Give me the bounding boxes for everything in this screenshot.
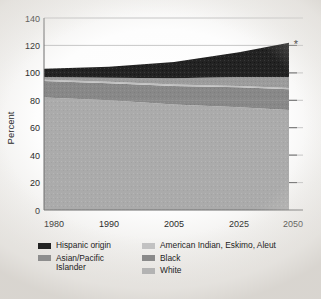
y-tick-label: 20 xyxy=(30,178,40,188)
legend-swatch-white xyxy=(142,268,155,274)
legend-label: White xyxy=(160,266,181,276)
y-tick-label: 60 xyxy=(30,123,40,133)
x-tick-label: 2025 xyxy=(229,219,249,229)
y-tick-label: 0 xyxy=(35,206,40,216)
x-tick-label: 1990 xyxy=(99,219,119,229)
asterisk-annotation: * xyxy=(294,38,299,50)
legend-swatch-hispanic-origin xyxy=(38,243,51,249)
x-tick-labels: 1980 1990 2005 2025 2050 xyxy=(44,219,303,229)
x-tick-label: 1980 xyxy=(44,219,64,229)
legend-swatch-black xyxy=(142,255,155,261)
area-white xyxy=(44,98,289,210)
legend-item-black[interactable]: Black xyxy=(142,254,318,264)
y-tick-label: 80 xyxy=(30,96,40,106)
x-tick-label: 2050 xyxy=(283,219,303,229)
legend-label: Asian/Pacific Islander xyxy=(56,254,104,273)
legend-label: Black xyxy=(160,254,180,264)
y-tick-label: 40 xyxy=(30,151,40,161)
legend-label: Hispanic origin xyxy=(56,241,111,251)
legend-column-left: Hispanic origin Asian/Pacific Islander xyxy=(38,241,142,276)
y-tick-label: 120 xyxy=(25,41,40,51)
y-tick-label: 100 xyxy=(25,68,40,78)
legend-item-asian-pacific-islander[interactable]: Asian/Pacific Islander xyxy=(38,254,142,273)
legend-item-hispanic-origin[interactable]: Hispanic origin xyxy=(38,241,142,251)
area-hispanic-origin xyxy=(44,43,289,79)
legend-swatch-american-indian-eskimo-aleut xyxy=(142,243,155,249)
legend-item-american-indian-eskimo-aleut[interactable]: American Indian, Eskimo, Aleut xyxy=(142,241,318,251)
legend-label: American Indian, Eskimo, Aleut xyxy=(160,241,276,251)
legend-item-white[interactable]: White xyxy=(142,266,318,276)
stacked-areas xyxy=(44,43,289,210)
y-tick-label: 140 xyxy=(25,14,40,24)
y-axis-title: Percent xyxy=(5,111,16,144)
x-tick-label: 2005 xyxy=(164,219,184,229)
legend-swatch-asian-pacific-islander xyxy=(38,255,51,261)
y-tick-labels: 140 120 100 80 60 40 20 0 xyxy=(25,14,40,216)
legend-column-right: American Indian, Eskimo, Aleut Black Whi… xyxy=(142,241,318,279)
